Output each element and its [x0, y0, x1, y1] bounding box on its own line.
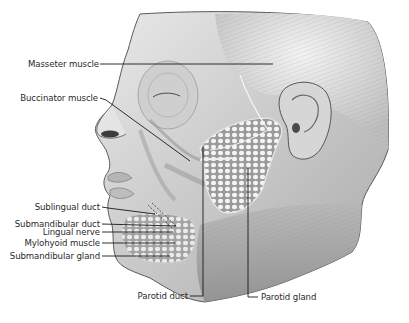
- label-parotid-gland: Parotid gland: [261, 292, 316, 302]
- label-sublingual-duct: Sublingual duct: [20, 202, 100, 212]
- label-lingual-nerve: Lingual nerve: [20, 227, 100, 237]
- label-masseter-muscle: Masseter muscle: [28, 59, 98, 69]
- head-silhouette: [95, 12, 388, 302]
- label-submandibular-gland: Submandibular gland: [4, 251, 100, 261]
- label-buccinator-muscle: Buccinator muscle: [20, 93, 98, 103]
- anatomy-illustration: [0, 0, 409, 323]
- label-parotid-duct: Parotid duct: [112, 291, 188, 301]
- label-mylohyoid-muscle: Mylohyoid muscle: [10, 238, 100, 248]
